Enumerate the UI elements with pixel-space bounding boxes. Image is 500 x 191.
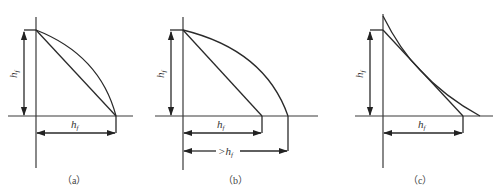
diagram-canvas: hf hf （a） hf hf >hf （b） hf hf （c）	[0, 0, 500, 191]
extended-distance-label: >hf	[218, 145, 234, 159]
distance-label: hf	[418, 118, 427, 132]
concave-curve	[383, 16, 480, 116]
height-label: hf	[7, 70, 21, 79]
height-label: hf	[353, 70, 367, 79]
convex-curve	[183, 30, 288, 116]
distance-label: hf	[71, 118, 80, 132]
caption-a: （a）	[62, 175, 86, 186]
straight-line	[36, 30, 116, 116]
panel-b: hf hf >hf （b）	[154, 17, 318, 186]
panel-c: hf hf （c）	[353, 14, 493, 186]
distance-label: hf	[217, 118, 226, 132]
caption-b: （b）	[223, 175, 248, 186]
caption-c: （c）	[408, 175, 432, 186]
height-label: hf	[154, 70, 168, 79]
straight-line	[183, 30, 262, 116]
panel-a: hf hf （a）	[7, 17, 133, 186]
